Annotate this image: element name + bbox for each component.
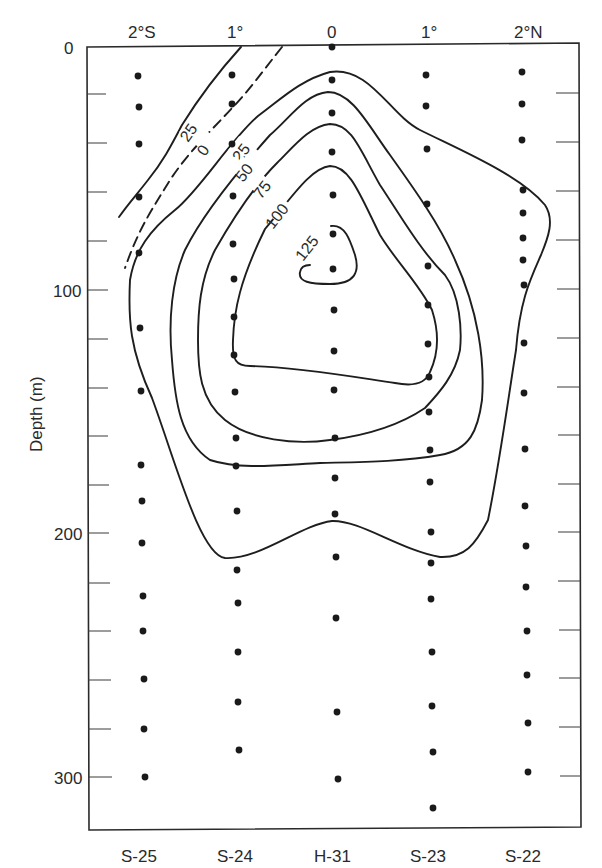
top-label-1N: 1° <box>421 23 437 42</box>
top-axis-labels: 2°S 1° 0 1° 2°N <box>128 23 543 42</box>
left-ticks <box>88 94 112 777</box>
station-H-31-samples <box>329 44 342 783</box>
right-ticks <box>556 93 581 776</box>
top-label-2S: 2°S <box>128 23 156 42</box>
y-axis-labels: 0 100 200 300 Depth (m) <box>27 39 82 788</box>
station-label-H-31: H-31 <box>314 847 351 866</box>
station-label-S-25: S-25 <box>121 847 157 866</box>
station-label-S-23: S-23 <box>410 847 446 866</box>
contour-labels: 25 0 25 50 75 100 125 <box>177 118 326 264</box>
y-tick-label-0: 0 <box>64 39 73 58</box>
y-tick-label-100: 100 <box>53 282 81 301</box>
station-S-23-samples <box>423 72 437 812</box>
top-label-equator: 0 <box>327 23 336 42</box>
station-label-S-24: S-24 <box>217 847 253 866</box>
top-label-1S: 1° <box>227 23 243 42</box>
top-label-2N: 2°N <box>514 23 543 42</box>
station-label-S-22: S-22 <box>505 847 541 866</box>
station-S-25-samples <box>135 73 149 781</box>
contour-figure: 2°S 1° 0 1° 2°N 0 100 200 300 Depth (m) <box>0 0 602 868</box>
y-tick-label-300: 300 <box>54 769 82 788</box>
sample-points <box>135 44 532 812</box>
y-axis-title: Depth (m) <box>27 376 46 452</box>
station-S-22-samples <box>519 69 532 776</box>
contour-25 <box>129 71 550 558</box>
y-tick-label-200: 200 <box>54 525 82 544</box>
bottom-axis-labels: S-25 S-24 H-31 S-23 S-22 <box>121 847 541 866</box>
